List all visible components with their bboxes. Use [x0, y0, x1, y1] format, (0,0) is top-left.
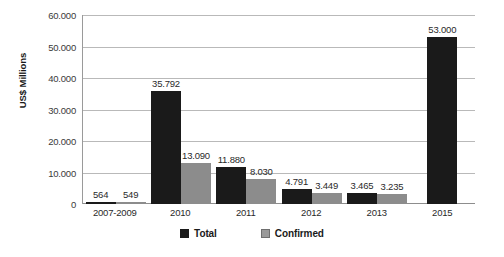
legend-item-confirmed[interactable]: Confirmed: [261, 228, 324, 239]
bar-value-label: 13.090: [182, 150, 210, 161]
bar-slot: 3.449: [312, 15, 342, 204]
bar-slot: 11.880: [216, 15, 246, 204]
bar-group-bars: 3.4653.235: [344, 15, 409, 204]
bar-value-label: 35.792: [152, 78, 180, 89]
x-axis-tick-label: 2012: [279, 207, 345, 218]
bar-group: 35.79213.090: [148, 15, 213, 204]
bar-group: 11.8808.030: [214, 15, 279, 204]
legend-label: Total: [194, 228, 217, 239]
bar-total[interactable]: 4.791: [282, 189, 312, 204]
bar-slot: 564: [86, 15, 116, 204]
bar-value-label: 53.000: [428, 24, 456, 35]
bar-value-label: 3.465: [351, 180, 374, 191]
x-axis-tick-label: 2007-2009: [82, 207, 148, 218]
legend-swatch-icon: [180, 229, 189, 238]
bar-total[interactable]: 11.880: [216, 167, 246, 204]
bar-slot: 53.000: [427, 15, 457, 204]
bar-group-bars: 4.7913.449: [279, 15, 344, 204]
bar-group-bars: 11.8808.030: [214, 15, 279, 204]
x-axis-tick-labels: 2007-200920102011201220132015: [82, 207, 475, 218]
legend-item-total[interactable]: Total: [180, 228, 217, 239]
y-axis-tick-label: 40.000: [26, 73, 76, 84]
bar-total[interactable]: 3.465: [347, 193, 377, 204]
bar-confirmed[interactable]: 3.235: [377, 194, 407, 204]
bar-slot: 3.235: [377, 15, 407, 204]
bar-confirmed[interactable]: 549: [116, 202, 146, 204]
bar-slot: 549: [116, 15, 146, 204]
y-axis-tick-label: 60.000: [26, 10, 76, 21]
x-axis-tick-label: 2011: [213, 207, 279, 218]
bar-group: 3.4653.235: [344, 15, 409, 204]
bar-group: 564549: [83, 15, 148, 204]
bar-slot: 13.090: [181, 15, 211, 204]
x-axis-tick-label: 2010: [148, 207, 214, 218]
bar-slot: 3.465: [347, 15, 377, 204]
bar-group-bars: 53.000: [410, 15, 475, 204]
bar-value-label: 11.880: [218, 154, 245, 165]
bar-group-bars: 35.79213.090: [148, 15, 213, 204]
bar-slot: 35.792: [151, 15, 181, 204]
bar-value-label: 8.030: [250, 166, 273, 177]
y-axis-tick-label: 10.000: [26, 167, 76, 178]
legend-swatch-icon: [261, 229, 270, 238]
bar-value-label: 3.235: [381, 181, 404, 192]
x-axis-tick-label: 2013: [344, 207, 410, 218]
bar-confirmed[interactable]: 3.449: [312, 193, 342, 204]
bar-value-label: 4.791: [285, 176, 308, 187]
y-axis-tick-labels: 60.00050.00040.00030.00020.00010.0000: [26, 15, 76, 204]
bar-confirmed[interactable]: 8.030: [246, 179, 276, 204]
bar-group: 4.7913.449: [279, 15, 344, 204]
bar-confirmed[interactable]: 13.090: [181, 163, 211, 204]
plot-area: 56454935.79213.09011.8808.0304.7913.4493…: [82, 15, 475, 204]
bar-group-bars: 564549: [83, 15, 148, 204]
y-axis-tick-label: 30.000: [26, 104, 76, 115]
y-axis-tick-label: 50.000: [26, 41, 76, 52]
bar-value-label: 3.449: [315, 180, 338, 191]
bar-groups: 56454935.79213.09011.8808.0304.7913.4493…: [83, 15, 475, 204]
x-axis-tick-label: 2015: [410, 207, 476, 218]
bar-slot: 4.791: [282, 15, 312, 204]
bar-slot: 8.030: [246, 15, 276, 204]
bar-total[interactable]: 564: [86, 202, 116, 204]
y-axis-tick-label: 0: [26, 199, 76, 210]
bar-total[interactable]: 35.792: [151, 91, 181, 204]
bar-total[interactable]: 53.000: [427, 37, 457, 204]
bar-chart: US$ Millions 60.00050.00040.00030.00020.…: [0, 0, 504, 257]
bar-group: 53.000: [410, 15, 475, 204]
bar-value-label: 549: [123, 189, 138, 200]
legend-label: Confirmed: [275, 228, 324, 239]
bar-value-label: 564: [93, 189, 108, 200]
chart-legend: TotalConfirmed: [0, 228, 504, 239]
y-axis-tick-label: 20.000: [26, 136, 76, 147]
